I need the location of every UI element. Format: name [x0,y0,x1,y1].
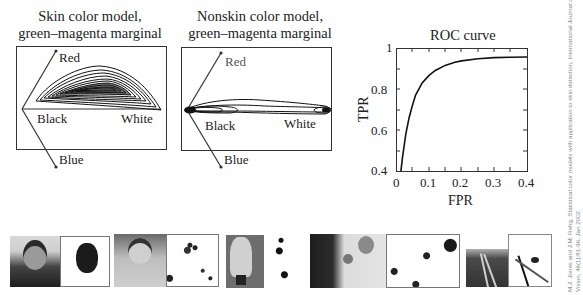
photo-smiling-woman [114,234,166,287]
photo-child-standing [226,235,264,288]
citation-line2: Vision, 46(1):81-96, Jan 2002. [574,0,582,292]
baby-face [343,254,353,264]
x-tick-0: 0 [393,175,400,191]
x-tick-0.1: 0.1 [420,175,436,191]
citation-line1: M.J. Jones and J.M. Rehg, Statistical co… [566,0,574,292]
x-tick-0.4: 0.4 [518,175,534,191]
mask-man-holding-baby [386,234,460,288]
mask-blob [76,243,98,273]
roc-curve-line [401,57,527,171]
y-tick-0.6: 0.6 [371,123,387,139]
citation: M.J. Jones and J.M. Rehg, Statistical co… [566,0,582,292]
x-axis-title: FPR [448,193,473,209]
y-tick-0.4: 0.4 [371,163,387,179]
child-shape [230,237,252,277]
y-tick-1: 1 [386,40,393,56]
x-tick-0.2: 0.2 [452,175,468,191]
y-axis-title: TPR [356,96,372,122]
shadow-shape [236,275,246,285]
mask-man-in-suit [60,236,110,287]
photo-man-holding-baby [310,234,386,288]
photo-railroad-tracks [466,249,508,287]
photo-man-in-suit [10,236,60,287]
face-shape [128,238,152,264]
man-face [358,236,374,254]
face-shape [23,240,47,270]
mask-blob [531,257,539,263]
y-tick-0.8: 0.8 [371,82,387,98]
x-tick-0.3: 0.3 [485,175,501,191]
mask-line [515,259,549,283]
mask-railroad-tracks [508,234,552,287]
mask-smiling-woman [166,234,219,287]
mask-line [517,256,530,287]
mask-child-standing [264,235,298,288]
